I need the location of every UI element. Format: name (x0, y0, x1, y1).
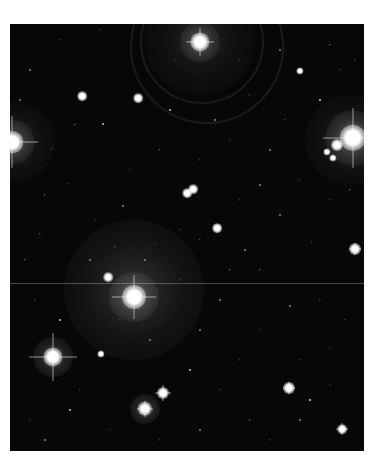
faint-star (199, 429, 201, 431)
bright-star (188, 184, 198, 194)
faint-star (114, 246, 115, 247)
faint-star (79, 389, 80, 390)
faint-star (219, 389, 220, 390)
bright-star (329, 154, 336, 161)
bright-star (212, 223, 222, 233)
faint-star (99, 29, 100, 30)
faint-star (309, 399, 311, 401)
faint-star (319, 299, 320, 300)
bright-star (133, 93, 143, 103)
faint-star (299, 419, 301, 421)
faint-star (279, 49, 281, 51)
faint-star (279, 214, 281, 216)
bright-star (122, 285, 146, 309)
faint-star (244, 249, 246, 251)
bright-star (349, 243, 361, 255)
faint-star (89, 259, 91, 261)
faint-star (129, 169, 130, 170)
faint-star (199, 329, 201, 331)
faint-star (24, 259, 25, 260)
bright-star (157, 387, 169, 399)
faint-star (299, 359, 300, 360)
faint-star (29, 69, 31, 71)
faint-star (284, 119, 285, 120)
faint-star (199, 159, 200, 160)
faint-star (59, 39, 60, 40)
faint-star (259, 269, 260, 270)
faint-star (179, 279, 180, 280)
faint-star (249, 419, 250, 420)
faint-star (44, 194, 45, 195)
faint-star (329, 384, 330, 385)
faint-star (179, 229, 180, 230)
faint-star (39, 233, 40, 234)
bright-star (97, 350, 104, 357)
faint-star (69, 409, 71, 411)
starfield-image (10, 24, 364, 451)
scan-artifact-line (10, 283, 364, 284)
faint-star (329, 199, 330, 200)
faint-star (239, 199, 240, 200)
bright-star (337, 424, 347, 434)
bright-star (331, 139, 343, 151)
faint-star (269, 149, 271, 151)
faint-star (149, 339, 151, 341)
faint-star (269, 439, 270, 440)
faint-star (249, 94, 250, 95)
faint-star (299, 179, 300, 180)
bright-star (340, 125, 364, 151)
faint-star (102, 123, 104, 125)
faint-star (339, 69, 340, 70)
faint-star (289, 305, 291, 307)
faint-star (154, 244, 155, 245)
faint-star (319, 99, 321, 101)
faint-star (214, 119, 216, 121)
faint-star (329, 44, 330, 45)
faint-star (44, 439, 46, 441)
faint-star (259, 184, 261, 186)
faint-star (239, 359, 240, 360)
faint-star (109, 429, 110, 430)
bright-star (296, 67, 303, 74)
faint-star (229, 139, 230, 140)
faint-star (259, 329, 260, 330)
faint-star (34, 299, 35, 300)
bright-star (283, 382, 295, 394)
faint-star (169, 109, 171, 111)
faint-star (122, 205, 124, 207)
faint-star (229, 269, 230, 270)
faint-star (329, 347, 330, 348)
faint-star (311, 241, 312, 242)
faint-star (159, 439, 160, 440)
faint-star (94, 219, 95, 220)
faint-star (19, 99, 21, 101)
faint-star (144, 259, 146, 261)
faint-star (174, 59, 175, 60)
faint-star (199, 239, 200, 240)
faint-star (159, 149, 160, 150)
faint-star (344, 319, 345, 320)
bright-star (103, 272, 113, 282)
faint-star (119, 319, 120, 320)
faint-star (59, 319, 61, 321)
faint-star (239, 59, 240, 60)
faint-star (74, 124, 75, 125)
faint-star (51, 148, 52, 149)
faint-star (67, 183, 68, 184)
bright-star (77, 91, 87, 101)
faint-star (219, 299, 221, 301)
faint-star (349, 189, 350, 190)
faint-star (354, 59, 355, 60)
faint-star (189, 369, 191, 371)
faint-star (29, 419, 30, 420)
